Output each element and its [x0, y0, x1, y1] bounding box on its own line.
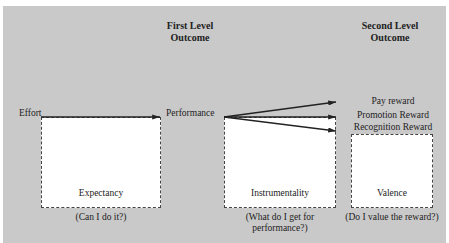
expectancy-question: (Can I do it?) [41, 212, 161, 223]
pay-arrow [224, 102, 336, 117]
question-line: performance?) [220, 223, 340, 234]
effort-label: Effort [19, 108, 42, 119]
recognition-arrow [224, 117, 336, 131]
performance-label: Performance [166, 108, 215, 119]
promotion-reward-label: Promotion Reward [338, 110, 448, 121]
instrumentality-question: (What do I get for performance?) [220, 212, 340, 234]
question-line: (What do I get for [220, 212, 340, 223]
recognition-reward-label: Recognition Reward [338, 122, 448, 133]
pay-reward-label: Pay reward [338, 96, 448, 107]
valence-question: (Do I value the reward?) [337, 212, 447, 223]
